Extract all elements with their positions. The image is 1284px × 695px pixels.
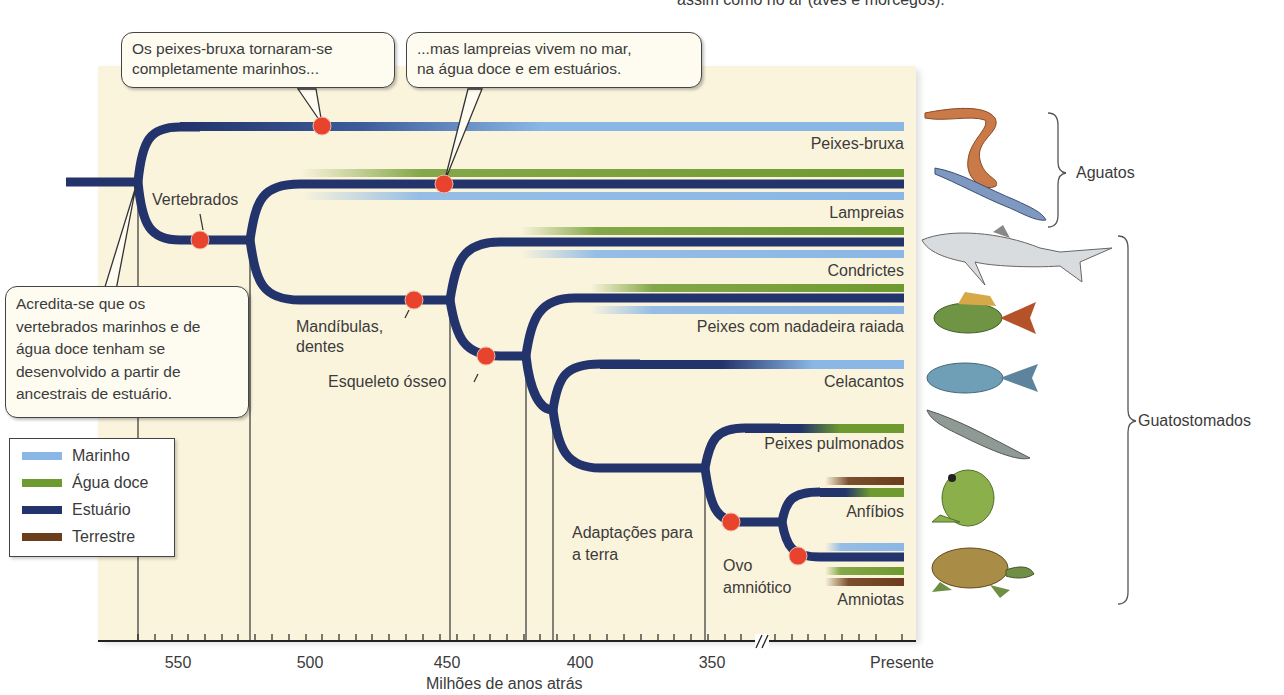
lineage-label-peixes-pulmonados: Peixes pulmonados bbox=[764, 434, 904, 453]
event-label-adaptacoes-2: a terra bbox=[572, 545, 618, 564]
event-label-adaptacoes-1: Adaptações para bbox=[572, 523, 693, 542]
legend-item-marinho: Marinho bbox=[22, 446, 130, 466]
lineage-label-celacantos: Celacantos bbox=[824, 372, 904, 391]
legend-swatch-marinho bbox=[22, 452, 62, 460]
callout-origin-line4: desenvolvido a partir de bbox=[16, 361, 238, 384]
event-label-mandibulas-2: dentes bbox=[296, 337, 344, 356]
axis-tick-450: 450 bbox=[434, 654, 461, 672]
legend-swatch-terrestre bbox=[22, 533, 62, 541]
callout-origin-line2: vertebrados marinhos e de bbox=[16, 316, 238, 339]
callout-origin-line3: água doce tenham se bbox=[16, 338, 238, 361]
axis-tick-500: 500 bbox=[297, 654, 324, 672]
legend-label-marinho: Marinho bbox=[72, 447, 130, 465]
habitat-bars bbox=[180, 122, 904, 586]
legend-swatch-agua-doce bbox=[22, 479, 62, 487]
axis-tick-presente: Presente bbox=[870, 654, 934, 672]
callout-hagfish: Os peixes-bruxa tornaram-se completament… bbox=[121, 32, 395, 88]
legend-label-agua-doce: Água doce bbox=[72, 474, 149, 492]
event-label-esqueleto: Esqueleto ósseo bbox=[328, 372, 446, 391]
lineage-label-nadadeira-raiada: Peixes com nadadeira raiada bbox=[697, 317, 904, 336]
lineage-label-lampreias: Lampreias bbox=[829, 203, 904, 222]
time-axis bbox=[98, 634, 916, 648]
event-label-vertebrados: Vertebrados bbox=[152, 190, 238, 209]
callout-hagfish-line2: completamente marinhos... bbox=[132, 59, 384, 79]
axis-title: Milhões de anos atrás bbox=[426, 674, 583, 693]
phylogeny-diagram: assim como no ar (aves e morcegos). bbox=[0, 0, 1284, 695]
shark-illustration bbox=[922, 233, 1112, 285]
callout-origin-line5: ancestrais de estuário. bbox=[16, 383, 238, 406]
axis-tick-550: 550 bbox=[165, 654, 192, 672]
event-label-ovo-1: Ovo bbox=[723, 556, 752, 575]
lineage-label-amniotas: Amniotas bbox=[837, 590, 904, 609]
lineage-label-anfibios: Anfíbios bbox=[846, 502, 904, 521]
group-braces bbox=[1048, 113, 1136, 604]
frog-illustration bbox=[932, 470, 994, 526]
legend-label-terrestre: Terrestre bbox=[72, 528, 135, 546]
legend-item-agua-doce: Água doce bbox=[22, 473, 149, 493]
turtle-illustration bbox=[932, 548, 1034, 598]
event-label-mandibulas-1: Mandíbulas, bbox=[296, 317, 383, 336]
lineage-label-peixes-bruxa: Peixes-bruxa bbox=[811, 134, 904, 153]
group-label-aguatos: Aguatos bbox=[1076, 164, 1135, 182]
perch-illustration bbox=[934, 292, 1036, 334]
callout-lamprey-line1: ...mas lampreias vivem no mar, bbox=[417, 39, 691, 59]
lungfish-illustration bbox=[927, 410, 1030, 459]
legend-swatch-estuario bbox=[22, 506, 62, 514]
callout-hagfish-line1: Os peixes-bruxa tornaram-se bbox=[132, 39, 384, 59]
lineage-label-condrictes: Condrictes bbox=[828, 261, 904, 280]
habitat-legend: Marinho Água doce Estuário Terrestre bbox=[9, 438, 175, 557]
callout-origin: Acredita-se que os vertebrados marinhos … bbox=[5, 286, 249, 418]
callout-lamprey: ...mas lampreias vivem no mar, na água d… bbox=[406, 32, 702, 88]
coelacanth-illustration bbox=[927, 363, 1038, 393]
callout-origin-line1: Acredita-se que os bbox=[16, 293, 238, 316]
legend-label-estuario: Estuário bbox=[72, 501, 131, 519]
event-label-ovo-2: amniótico bbox=[723, 578, 791, 597]
legend-item-terrestre: Terrestre bbox=[22, 527, 135, 547]
axis-tick-350: 350 bbox=[699, 654, 726, 672]
axis-tick-400: 400 bbox=[567, 654, 594, 672]
callout-lamprey-line2: na água doce e em estuários. bbox=[417, 59, 691, 79]
group-label-guatostomados: Guatostomados bbox=[1138, 412, 1251, 430]
legend-item-estuario: Estuário bbox=[22, 500, 131, 520]
